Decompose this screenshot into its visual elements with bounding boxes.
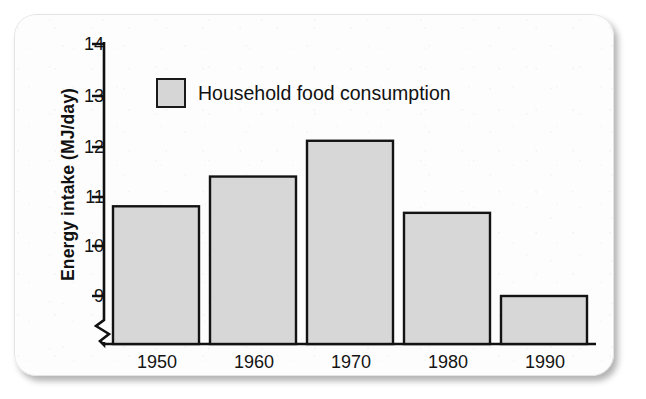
bar-group [113, 141, 587, 344]
bar-1990[interactable] [501, 296, 587, 344]
x-tick-label-1980: 1980 [428, 352, 468, 373]
bar-1970[interactable] [307, 141, 393, 344]
bar-1980[interactable] [404, 213, 490, 344]
x-tick-label-1950: 1950 [137, 352, 177, 373]
y-axis-break-icon [96, 316, 109, 345]
bar-1960[interactable] [210, 177, 296, 344]
x-tick-label-1990: 1990 [525, 352, 565, 373]
chart-card: Energy intake (MJ/day) 14 13 12 11 10 9 … [14, 14, 614, 376]
x-tick-label-1960: 1960 [234, 352, 274, 373]
x-tick-label-1970: 1970 [331, 352, 371, 373]
bar-1950[interactable] [113, 206, 199, 344]
bar-chart: Energy intake (MJ/day) 14 13 12 11 10 9 … [14, 14, 614, 376]
screenshot-stage: Energy intake (MJ/day) 14 13 12 11 10 9 … [0, 0, 646, 399]
chart-graphics [14, 14, 614, 376]
